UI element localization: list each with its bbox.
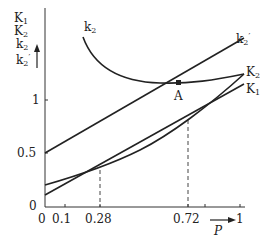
curve-k2-prime (45, 38, 244, 153)
plot-canvas (0, 0, 270, 244)
y-tick-label-1: 1 (32, 94, 40, 106)
y-tick-label-0.5: 0.5 (17, 147, 36, 159)
point-A-label: A (174, 90, 183, 102)
curve-label-k2: k2 (84, 21, 96, 37)
curve-label-K2: K2 (246, 66, 260, 82)
y-arrow-head-icon (34, 44, 40, 52)
curve-k2 (83, 37, 244, 83)
y-label-k2-prime: k2′ (16, 51, 30, 70)
point-A-marker (176, 80, 181, 85)
x-tick-label-0.72: 0.72 (173, 213, 200, 225)
x-tick-label-0: 0 (38, 213, 46, 225)
curve-label-k2-prime: k2′ (236, 30, 250, 49)
curve-K2 (45, 74, 244, 185)
x-arrow-head-icon (228, 217, 236, 223)
x-tick-label-0.28: 0.28 (85, 213, 112, 225)
x-axis-label-P: P (214, 225, 222, 237)
x-tick-label-0.1: 0.1 (52, 213, 71, 225)
x-tick-label-1: 1 (236, 213, 244, 225)
curve-label-K1: K1 (246, 83, 260, 99)
diagram: K1 K2 k2 k2′ 1 0.5 0 0 0.1 0.28 0.72 1 P… (0, 0, 270, 244)
y-tick-label-0: 0 (29, 200, 37, 212)
